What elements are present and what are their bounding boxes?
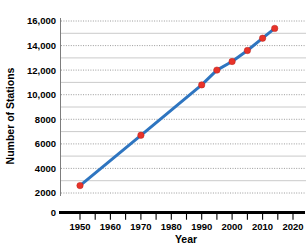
data-point-marker: 1990: 10800 [199,82,205,88]
data-point-marker: 1950: 2600 [77,182,83,188]
y-tick-label: 14,000 [27,40,56,51]
data-point-marker: 2000: 12700 [229,58,235,64]
data-point-marker: 2005: 13600 [244,47,250,53]
y-tick-label: 0 [51,207,56,218]
y-tick-label: 6000 [35,138,56,149]
data-point-marker: 2014: 15400 [272,25,278,31]
x-axis-title: Year [175,233,197,245]
y-axis-title: Number of Stations [4,67,16,164]
line-chart: 0200040006000800010,00012,00014,00016,00… [0,0,308,249]
data-point-marker: 1995: 12000 [214,67,220,73]
data-point-marker: 2010: 14600 [259,35,265,41]
y-tick-label: 8000 [35,114,56,125]
x-tick-label: 1960 [100,221,121,232]
x-tick-label: 2020 [282,221,303,232]
x-tick-label: 2000 [222,221,243,232]
x-tick-label: 2010 [252,221,273,232]
y-tick-label: 12,000 [27,65,56,76]
y-tick-label: 10,000 [27,89,56,100]
x-tick-label: 1970 [130,221,151,232]
x-tick-label: 1980 [161,221,182,232]
x-tick-label: 1950 [69,221,90,232]
y-tick-label: 4000 [35,163,56,174]
y-tick-label: 2000 [35,187,56,198]
data-point-marker: 1970: 6700 [138,132,144,138]
x-tick-label: 1990 [191,221,212,232]
chart-container: 0200040006000800010,00012,00014,00016,00… [0,0,308,249]
y-tick-label: 16,000 [27,15,56,26]
